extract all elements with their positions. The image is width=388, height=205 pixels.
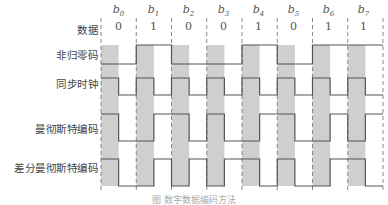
timing-diagram — [0, 0, 388, 205]
clock-high-shading — [101, 45, 365, 186]
figure-caption: 图 数字数据编码方法 — [0, 193, 388, 205]
